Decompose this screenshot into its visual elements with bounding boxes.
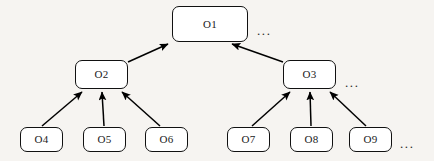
edge-o4-to-o2 bbox=[42, 92, 82, 126]
node-o5[interactable]: O5 bbox=[83, 127, 126, 152]
node-o1[interactable]: O1 bbox=[172, 6, 248, 42]
node-o8[interactable]: O8 bbox=[290, 127, 333, 152]
edge-o7-to-o3 bbox=[252, 92, 290, 126]
ellipsis-top-icon: ... bbox=[257, 24, 272, 37]
edge-o6-to-o2 bbox=[122, 92, 160, 126]
node-o4-label: O4 bbox=[34, 134, 48, 145]
edge-o9-to-o3 bbox=[330, 92, 366, 126]
node-o3[interactable]: O3 bbox=[283, 60, 336, 89]
node-o1-label: O1 bbox=[203, 19, 217, 30]
node-o3-label: O3 bbox=[302, 69, 316, 80]
node-o9[interactable]: O9 bbox=[349, 127, 392, 152]
ellipsis-bottom-right-icon: ... bbox=[400, 137, 415, 150]
node-o7[interactable]: O7 bbox=[227, 127, 270, 152]
node-o2-label: O2 bbox=[94, 69, 108, 80]
ellipsis-middle-right-icon: ... bbox=[345, 76, 360, 89]
node-o6-label: O6 bbox=[159, 134, 173, 145]
node-o9-label: O9 bbox=[363, 134, 377, 145]
node-o6[interactable]: O6 bbox=[145, 127, 188, 152]
edge-o2-to-o1 bbox=[128, 44, 168, 62]
node-o8-label: O8 bbox=[304, 134, 318, 145]
node-o2[interactable]: O2 bbox=[75, 60, 128, 89]
node-o7-label: O7 bbox=[241, 134, 255, 145]
edge-o8-to-o3 bbox=[310, 92, 311, 126]
node-o4[interactable]: O4 bbox=[20, 127, 63, 152]
edge-o5-to-o2 bbox=[102, 92, 104, 126]
hierarchy-diagram: O1 O2 O3 O4 O5 O6 O7 O8 O9 ... ... ... bbox=[0, 0, 434, 161]
edge-o3-to-o1 bbox=[232, 44, 283, 62]
node-o5-label: O5 bbox=[97, 134, 111, 145]
